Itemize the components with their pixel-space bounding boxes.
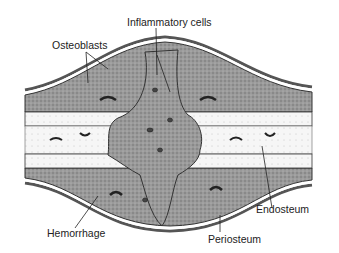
label-osteoblasts: Osteoblasts [52, 39, 107, 51]
label-hemorrhage: Hemorrhage [47, 227, 105, 239]
label-periosteum: Periosteum [208, 233, 261, 245]
fracture-diagram [0, 0, 339, 253]
label-inflammatory-cells: Inflammatory cells [127, 16, 212, 28]
label-endosteum: Endosteum [256, 203, 309, 215]
